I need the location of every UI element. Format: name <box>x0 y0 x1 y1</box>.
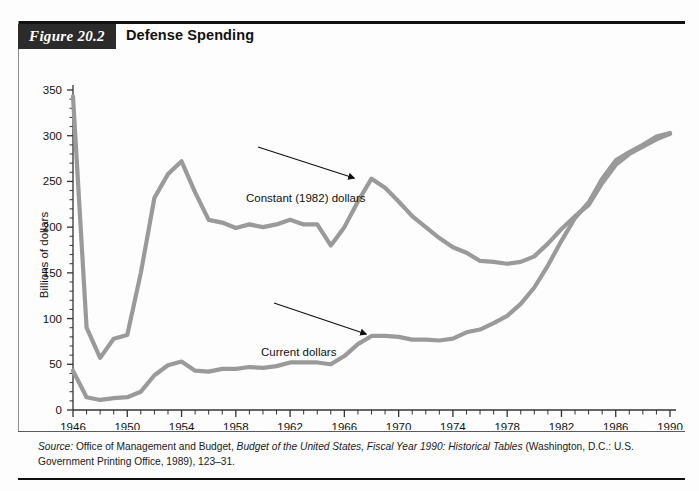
x-tick-label: 1982 <box>549 421 575 430</box>
figure-title: Defense Spending <box>126 27 254 43</box>
figure-container: Figure 20.2 Defense Spending 05010015020… <box>0 0 699 491</box>
x-tick-label: 1974 <box>440 421 466 430</box>
arrow-current-dollars <box>274 303 366 334</box>
caption-divider-rule <box>18 431 685 432</box>
y-tick-label: 300 <box>43 130 62 142</box>
x-tick-label: 1970 <box>386 421 412 430</box>
chart-series-group <box>73 96 670 400</box>
figure-number-tag: Figure 20.2 <box>18 24 116 49</box>
series-line-constant-dollars <box>73 96 670 357</box>
y-tick-label: 100 <box>43 313 62 325</box>
x-tick-label: 1946 <box>60 421 86 430</box>
line-chart: 050100150200250300350 194619501954195819… <box>18 60 685 430</box>
x-tick-label: 1986 <box>603 421 629 430</box>
annotation-current-dollars: Current dollars <box>261 346 336 358</box>
y-tick-label: 0 <box>56 404 62 416</box>
x-tick-label: 1978 <box>494 421 520 430</box>
bottom-rule <box>18 478 685 480</box>
source-caption: Source: Office of Management and Budget,… <box>38 440 668 470</box>
series-line-current-dollars <box>73 133 670 400</box>
top-rule <box>18 21 685 24</box>
x-tick-label: 1950 <box>114 421 140 430</box>
y-tick-label: 50 <box>49 358 62 370</box>
source-title-part1: Budget of the United States, Fiscal Year… <box>237 441 491 452</box>
chart-plot-area: 050100150200250300350 194619501954195819… <box>18 60 685 430</box>
chart-axes <box>67 85 676 417</box>
x-tick-label: 1966 <box>332 421 358 430</box>
y-tick-label: 350 <box>43 84 62 96</box>
annotation-constant-dollars: Constant (1982) dollars <box>246 192 366 204</box>
x-tick-label: 1954 <box>169 421 195 430</box>
arrow-constant-dollars <box>258 147 354 178</box>
x-tick-label: 1990 <box>657 421 683 430</box>
x-tick-label: 1962 <box>277 421 303 430</box>
y-tick-label: 250 <box>43 175 62 187</box>
annotation-arrows <box>258 147 366 334</box>
source-text-a: Office of Management and Budget, <box>73 441 236 452</box>
y-axis-title: Billions of dollars <box>38 212 50 298</box>
source-prefix: Source: <box>38 441 73 452</box>
x-tick-label: 1958 <box>223 421 249 430</box>
source-title-part2: Tables <box>493 441 523 452</box>
x-tick-labels: 1946195019541958196219661970197419781982… <box>60 421 683 430</box>
